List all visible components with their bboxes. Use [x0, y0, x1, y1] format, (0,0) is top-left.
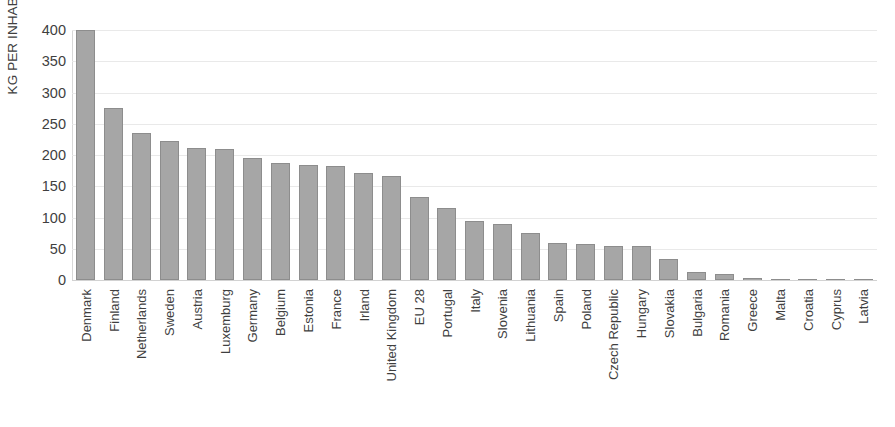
x-axis-tick-label: Malta	[774, 289, 787, 321]
x-axis-tick-label: Austria	[190, 289, 203, 329]
bar[interactable]	[632, 246, 651, 280]
y-axis-tick-label: 0	[30, 273, 66, 288]
bar-slot	[183, 30, 211, 280]
bar-slot	[572, 30, 600, 280]
bar-slot	[849, 30, 877, 280]
y-axis-tick-label: 150	[30, 179, 66, 194]
bar-slot	[766, 30, 794, 280]
bar[interactable]	[437, 208, 456, 280]
bar[interactable]	[576, 244, 595, 280]
x-axis-tick-label: Czech Republic	[607, 289, 620, 380]
x-axis-label-slot: Italy	[461, 283, 489, 423]
bar[interactable]	[243, 158, 262, 280]
x-axis-tick-label: Netherlands	[135, 289, 148, 359]
x-axis-tick-label: Belgium	[274, 289, 287, 336]
x-axis-tick-label: Slovenia	[496, 289, 509, 339]
x-axis-label-slot: Belgium	[266, 283, 294, 423]
bar-slot	[322, 30, 350, 280]
x-axis-label-slot: Poland	[572, 283, 600, 423]
bar[interactable]	[354, 173, 373, 280]
bar[interactable]	[604, 246, 623, 280]
x-axis-label-slot: United Kingdom	[377, 283, 405, 423]
x-axis-label-slot: Croatia	[794, 283, 822, 423]
bar[interactable]	[743, 278, 762, 280]
bar-slot	[544, 30, 572, 280]
bar-series	[72, 30, 877, 280]
x-axis-label-slot: EU 28	[405, 283, 433, 423]
x-axis-tick-label: Italy	[468, 289, 481, 313]
bar-chart: KG PER INHABITANTS 400350300250200150100…	[0, 0, 895, 427]
y-axis-tick-labels: 400350300250200150100500	[30, 30, 66, 280]
bar[interactable]	[104, 108, 123, 280]
y-axis-tick-label: 250	[30, 117, 66, 132]
x-axis-tick-label: Estonia	[302, 289, 315, 332]
bar[interactable]	[715, 274, 734, 280]
x-axis-label-slot: Portugal	[433, 283, 461, 423]
bar-slot	[128, 30, 156, 280]
bar-slot	[488, 30, 516, 280]
x-axis-label-slot: Spain	[544, 283, 572, 423]
bar[interactable]	[521, 233, 540, 281]
x-axis-tick-label: Cyprus	[829, 289, 842, 330]
x-axis-label-slot: Slovakia	[655, 283, 683, 423]
axis-baseline	[72, 280, 877, 281]
bar[interactable]	[299, 165, 318, 280]
bar-slot	[239, 30, 267, 280]
x-axis-label-slot: Austria	[183, 283, 211, 423]
y-axis-tick-label: 200	[30, 148, 66, 163]
bar[interactable]	[326, 166, 345, 280]
x-axis-label-slot: Latvia	[849, 283, 877, 423]
bar[interactable]	[465, 221, 484, 280]
x-axis-label-slot: Sweden	[155, 283, 183, 423]
bar-slot	[211, 30, 239, 280]
bar-slot	[822, 30, 850, 280]
bar[interactable]	[798, 279, 817, 280]
bar[interactable]	[687, 272, 706, 280]
x-axis-tick-label: Luxemburg	[218, 289, 231, 354]
bar[interactable]	[160, 141, 179, 280]
bar[interactable]	[410, 197, 429, 280]
bar[interactable]	[215, 149, 234, 280]
x-axis-tick-label: Hungary	[635, 289, 648, 338]
x-axis-label-slot: Estonia	[294, 283, 322, 423]
y-axis-title: KG PER INHABITANTS	[2, 0, 24, 147]
bar[interactable]	[187, 148, 206, 281]
bar[interactable]	[659, 259, 678, 280]
bar-slot	[294, 30, 322, 280]
x-axis-label-slot: Luxemburg	[211, 283, 239, 423]
bar[interactable]	[548, 243, 567, 281]
x-axis-label-slot: Greece	[738, 283, 766, 423]
bar[interactable]	[382, 176, 401, 280]
bar-slot	[711, 30, 739, 280]
y-axis-tick-label: 350	[30, 54, 66, 69]
x-axis-label-slot: France	[322, 283, 350, 423]
bar-slot	[655, 30, 683, 280]
bar[interactable]	[271, 163, 290, 281]
bar[interactable]	[771, 279, 790, 280]
x-axis-label-slot: Bulgaria	[683, 283, 711, 423]
x-axis-tick-label: Slovakia	[662, 289, 675, 338]
x-axis-tick-label: Finland	[107, 289, 120, 332]
bar-slot	[72, 30, 100, 280]
x-axis-tick-label: Poland	[579, 289, 592, 329]
bar-slot	[683, 30, 711, 280]
bar-slot	[794, 30, 822, 280]
x-axis-tick-label: Denmark	[79, 289, 92, 342]
bar[interactable]	[493, 224, 512, 280]
x-axis-tick-label: France	[329, 289, 342, 329]
x-axis-tick-label: Portugal	[440, 289, 453, 337]
bar[interactable]	[132, 133, 151, 280]
x-axis-label-slot: Lithuania	[516, 283, 544, 423]
bar-slot	[516, 30, 544, 280]
x-axis-label-slot: Germany	[239, 283, 267, 423]
x-axis-label-slot: Czech Republic	[600, 283, 628, 423]
bar[interactable]	[826, 279, 845, 280]
bar-slot	[738, 30, 766, 280]
bar-slot	[627, 30, 655, 280]
bar[interactable]	[854, 279, 873, 280]
x-axis-label-slot: Cyprus	[822, 283, 850, 423]
bar-slot	[433, 30, 461, 280]
bar[interactable]	[76, 30, 95, 280]
y-axis-tick-label: 300	[30, 85, 66, 100]
x-axis-label-slot: Netherlands	[128, 283, 156, 423]
